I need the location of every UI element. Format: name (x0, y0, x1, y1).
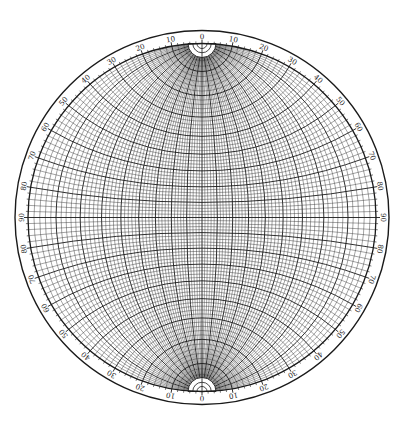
rim-label: 80 (375, 181, 386, 192)
rim-label: 0 (200, 32, 205, 41)
rim-label: 80 (375, 244, 386, 255)
rim-label: 0 (199, 394, 204, 403)
rim-label: 90 (17, 213, 26, 223)
rim-label: 80 (19, 180, 30, 191)
rim-label: 10 (165, 34, 176, 45)
net-grid (28, 44, 376, 392)
rim-label: 10 (165, 390, 176, 401)
rim-label: 10 (228, 391, 239, 402)
rim-label: 10 (228, 34, 239, 45)
rim-label: 90 (379, 213, 388, 223)
rim-label: 80 (18, 243, 29, 254)
stereonet-diagram: 0102030405060708090807060504030201001020… (0, 0, 408, 425)
